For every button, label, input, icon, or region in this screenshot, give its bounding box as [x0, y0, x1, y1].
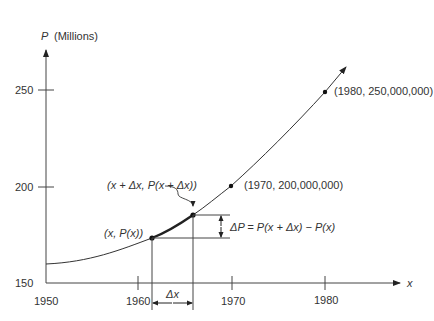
point-1980-label: (1980, 250,000,000): [334, 85, 433, 97]
point-1980: [323, 90, 327, 94]
x-tick-label-1980: 1980: [314, 294, 338, 306]
x-axis-var-label: x: [406, 277, 413, 289]
point-1970-label: (1970, 200,000,000): [244, 179, 343, 191]
y-axis-var-label: P: [41, 30, 49, 42]
population-curve: [46, 67, 346, 264]
x-tick-label-1970: 1970: [221, 295, 245, 307]
x-tick-label-1960: 1960: [126, 295, 150, 307]
point-1970: [229, 184, 233, 188]
x-tick-label-1950: 1950: [34, 295, 58, 307]
y-tick-label-150: 150: [15, 277, 33, 289]
y-tick-label-250: 250: [15, 84, 33, 96]
y-axis-unit-label: (Millions): [54, 30, 98, 42]
population-diagram: P (Millions) x 250 200 150 1950 1960 197…: [0, 0, 434, 321]
point-x-label: (x, P(x)): [104, 227, 143, 239]
y-tick-label-200: 200: [15, 181, 33, 193]
point-x-dx-label: (x + Δx, P(x + Δx)): [107, 179, 197, 191]
delta-p-label: ΔP = P(x + Δx) − P(x): [229, 221, 335, 233]
secant-segment: [152, 215, 193, 238]
delta-x-label: Δx: [165, 288, 179, 300]
